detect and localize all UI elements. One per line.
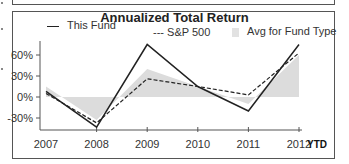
x-tick-label: 2007 [34, 138, 58, 150]
y-tick-label: 0% [17, 91, 33, 103]
x-tick-label: 2010 [186, 138, 210, 150]
y-tick-label: -30% [7, 112, 33, 124]
ytd-label: YTD [307, 139, 327, 150]
x-tick-label: 2008 [84, 138, 108, 150]
x-tick-label: 2009 [135, 138, 159, 150]
plot-area: 60%30%0%-30%200720082009201020112012YTD [0, 0, 349, 164]
x-tick-label: 2011 [237, 138, 261, 150]
y-tick-label: 30% [11, 70, 33, 82]
y-tick-label: 60% [11, 49, 33, 61]
